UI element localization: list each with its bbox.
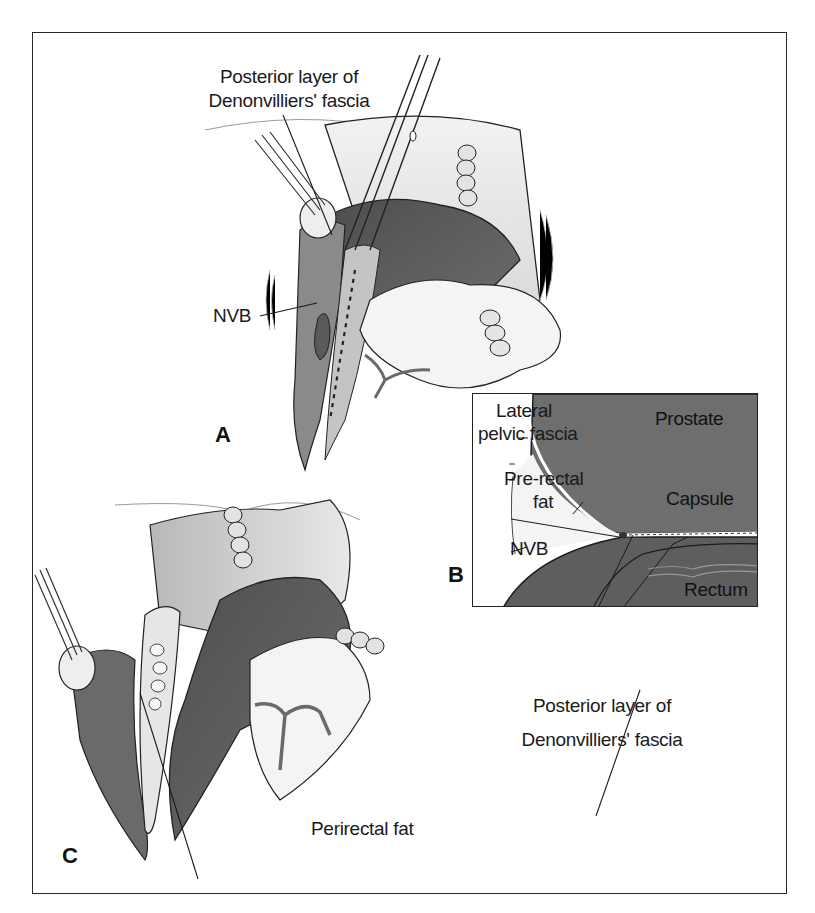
label-a-posterior-layer-line1: Posterior layer of [164,65,414,88]
panel-c-illustration [35,500,384,860]
label-a-posterior-layer-line2: Denonvilliers' fascia [164,89,414,112]
label-b-posterior-layer-line1: Posterior layer of [487,694,717,717]
label-a-nvb: NVB [213,304,251,327]
panel-letter-a: A [215,422,231,448]
label-b-posterior-layer-line2: Denonvilliers' fascia [487,728,717,751]
panel-letter-c: C [62,843,78,869]
label-b-prostate: Prostate [655,407,723,430]
label-b-nvb: NVB [510,537,548,560]
panel-letter-b: B [448,562,464,588]
label-b-prerectal-line1: Pre-rectal [504,467,583,490]
label-b-lateral-line2: pelvic fascia [478,422,578,445]
label-b-capsule: Capsule [666,487,734,510]
label-b-prerectal-line2: fat [533,490,553,513]
label-c-perirectal-fat: Perirectal fat [311,817,413,840]
label-b-lateral-line1: Lateral [478,399,570,422]
label-b-rectum: Rectum [684,578,748,601]
